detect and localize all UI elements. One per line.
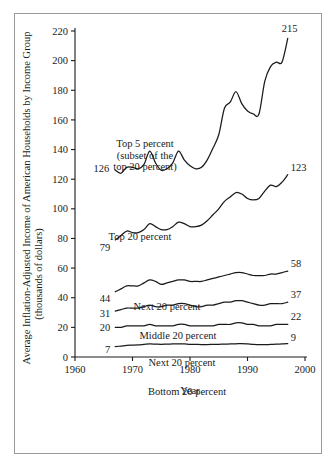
x-tick-label: 1990 <box>237 364 258 375</box>
series-line <box>115 323 288 328</box>
series-end-value: 215 <box>282 23 298 34</box>
y-tick-label: 160 <box>52 115 68 126</box>
series-end-value: 37 <box>291 289 302 300</box>
y-tick-label: 140 <box>52 144 68 155</box>
y-tick-label: 220 <box>52 26 68 37</box>
series-start-value: 20 <box>100 322 111 333</box>
y-tick-label: 180 <box>52 85 68 96</box>
series-start-value: 79 <box>100 242 111 253</box>
x-tick-label: 2000 <box>295 364 316 375</box>
y-axis-ticks: 020406080100120140160180200220 <box>52 26 75 363</box>
series-name-label: Bottom 20 percent <box>148 386 226 397</box>
series-line <box>115 344 288 347</box>
income-by-quintile-line-chart: 0204060801001201401601802002201960197019… <box>15 14 321 453</box>
series-name-label: Top 20 percent <box>109 231 172 242</box>
y-tick-label: 200 <box>52 55 68 66</box>
series-3 <box>115 271 288 292</box>
y-axis-title-units: (thousands of dollars) <box>33 228 45 320</box>
series-name-label: (subset of the <box>117 150 174 162</box>
series-5 <box>115 323 288 328</box>
series-end-value: 123 <box>291 162 307 173</box>
y-tick-label: 100 <box>52 203 68 214</box>
series-name-label: Next 20 percent <box>148 357 215 368</box>
series-name-label: Top 5 percent <box>116 138 174 149</box>
y-axis-title: Average Inflation-Adjusted Income of Ame… <box>21 32 32 365</box>
series-end-value: 58 <box>291 258 302 269</box>
y-tick-label: 0 <box>63 352 68 363</box>
series-6 <box>115 344 288 347</box>
y-tick-label: 60 <box>58 263 69 274</box>
y-tick-label: 120 <box>52 174 68 185</box>
y-tick-label: 20 <box>58 322 69 333</box>
series-end-value: 22 <box>291 311 302 322</box>
x-tick-label: 1960 <box>65 364 86 375</box>
series-name-label: Next 20 percent <box>133 301 200 312</box>
series-start-value: 7 <box>105 344 110 355</box>
y-tick-label: 80 <box>58 233 69 244</box>
series-end-value: 9 <box>291 332 296 343</box>
x-tick-label: 1970 <box>122 364 143 375</box>
chart-figure-frame: 0204060801001201401601802002201960197019… <box>14 13 322 454</box>
series-start-value: 31 <box>100 308 111 319</box>
series-annotations: Top 5 percent(subset of thetop 20 percen… <box>109 138 227 397</box>
series-name-label: top 20 percent) <box>113 161 177 173</box>
series-name-label: Middle 20 percent <box>140 330 217 341</box>
series-start-value: 126 <box>94 163 110 174</box>
y-tick-label: 40 <box>58 292 69 303</box>
series-start-value: 44 <box>100 293 111 304</box>
series-line <box>115 271 288 292</box>
